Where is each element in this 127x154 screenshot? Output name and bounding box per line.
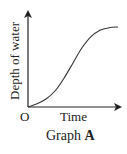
x-axis-label: Time — [60, 109, 87, 125]
caption-letter: A — [85, 128, 95, 143]
y-axis-label: Depth of water — [7, 22, 23, 100]
caption-prefix: Graph — [46, 128, 85, 143]
data-curve — [28, 27, 118, 107]
origin-label: O — [20, 109, 29, 125]
chart-caption: Graph A — [46, 128, 95, 144]
